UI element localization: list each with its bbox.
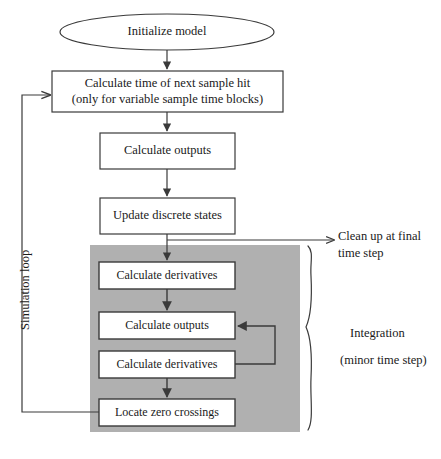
flowchart-canvas: Initialize model Calculate time of next … — [0, 0, 441, 459]
start-node-shape — [60, 14, 274, 50]
integration-brace — [306, 246, 311, 430]
annotation-integration-line-1: Integration — [350, 325, 440, 342]
annotation-integration-line-2: (minor time step) — [340, 352, 440, 369]
step-box-calculate-derivatives-2 — [99, 351, 235, 378]
annotation-simulation-loop: Simulation loop — [18, 250, 33, 330]
annotation-clean-up-final-time-step: Clean up at final time step — [338, 228, 438, 262]
step-box-calculate-outputs-major — [100, 133, 235, 169]
step-box-calculate-outputs-minor — [99, 312, 235, 339]
step-box-locate-zero-crossings — [99, 399, 235, 426]
step-box-update-discrete-states — [100, 198, 235, 234]
step-box-calc-time-next-sample-hit — [52, 71, 283, 112]
step-box-calculate-derivatives-1 — [99, 262, 235, 289]
connector-simulation-loop-return — [22, 95, 99, 412]
